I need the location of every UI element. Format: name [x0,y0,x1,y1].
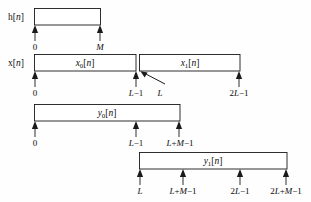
y1-tick-label-L: L [136,186,142,196]
x-tick-label-2L-minus-1: 2L−1 [229,88,248,98]
y1-tick-label-2L-minus-1: 2L−1 [230,186,249,196]
h-signal-label: h[n] [8,12,24,22]
y1-tick-L-plus-M-minus-1: L+M−1 [168,169,196,196]
block-convolution-diagram: h[n] 0 M x[n] x0[n] [0,0,311,202]
y1-tick-2L-minus-1: 2L−1 [230,169,249,196]
h-tick-label-M: M [95,42,104,52]
h-tick-label-0: 0 [33,42,38,52]
y0-tick-label-L-minus-1: L−1 [128,138,144,148]
y1-tick-label-2L-plus-M-minus-1: 2L+M−1 [270,186,302,196]
x-signal-label: x[n] [8,58,24,68]
row-y0: y0[n] 0 L−1 L+M−1 [32,105,194,149]
x-tick-L-minus-1: L−1 [128,71,144,98]
h-block-box [35,9,101,26]
diagram-canvas: h[n] 0 M x[n] x0[n] [0,0,311,202]
row-x: x[n] x0[n] x1[n] 0 L−1 [8,55,249,99]
x-tick-L-pointer [141,71,166,84]
y1-tick-2L-plus-M-minus-1: 2L+M−1 [270,169,302,196]
x0-block-label: x0[n] [75,58,95,69]
row-y1: y1[n] L L+M−1 2L−1 2L+M−1 [136,153,301,197]
x-tick-label-0: 0 [33,88,38,98]
y1-tick-label-L-plus-M-minus-1: L+M−1 [168,186,196,196]
x-tick-2L-minus-1: 2L−1 [229,71,248,98]
y0-block-label: y0[n] [97,108,117,119]
row-h: h[n] 0 M [8,9,104,53]
x-tick-label-L-minus-1: L−1 [128,88,144,98]
y0-tick-L-minus-1: L−1 [128,121,144,148]
x-tick-label-L: L [156,88,162,98]
x-tick-0: 0 [32,71,38,98]
h-tick-0: 0 [32,25,38,52]
y1-block-label: y1[n] [203,156,223,167]
y0-tick-label-L-plus-M-minus-1: L+M−1 [165,138,193,148]
h-tick-M: M [95,25,104,52]
x1-block-label: x1[n] [180,58,200,69]
y0-tick-label-0: 0 [33,138,38,148]
y0-tick-0: 0 [32,121,38,148]
y0-tick-L-plus-M-minus-1: L+M−1 [165,121,193,148]
y1-tick-L: L [136,169,143,196]
